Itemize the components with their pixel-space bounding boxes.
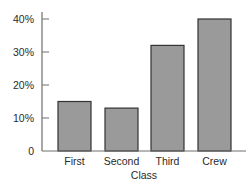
y-tick-label: 30% [13, 46, 34, 58]
bar-second [105, 108, 138, 151]
x-axis-labels: FirstSecondThirdCrew [64, 155, 227, 167]
bars-group [58, 19, 231, 151]
y-tick-label: 20% [13, 79, 34, 91]
x-tick-label: Second [104, 155, 140, 167]
bar-crew [198, 19, 231, 151]
x-axis-title: Class [131, 169, 157, 181]
x-tick-label: First [64, 155, 84, 167]
x-tick-label: Third [156, 155, 180, 167]
bar-first [58, 102, 91, 152]
y-axis: 010%20%30%40% [13, 12, 49, 157]
x-tick-label: Crew [202, 155, 227, 167]
bar-third [151, 45, 184, 151]
y-tick-label: 0 [28, 145, 34, 157]
y-tick-label: 10% [13, 112, 34, 124]
bar-chart: 010%20%30%40% FirstSecondThirdCrew Class [0, 0, 252, 192]
y-tick-label: 40% [13, 13, 34, 25]
